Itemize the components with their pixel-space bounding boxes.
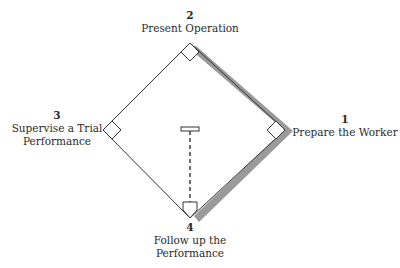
step-4-text-line-1: Follow up the (130, 234, 250, 247)
step-3-label: 3 Supervise a Trial Performance (8, 109, 106, 148)
step-4-label: 4 Follow up the Performance (130, 221, 250, 260)
step-3-text-line-1: Supervise a Trial (8, 122, 106, 135)
pitchers-rubber-icon (181, 127, 199, 131)
step-2-label: 2 Present Operation (120, 9, 260, 35)
base-2-icon (181, 43, 199, 61)
step-1-number: 1 (290, 113, 400, 126)
step-2-text: Present Operation (120, 22, 260, 35)
step-1-label: 1 Prepare the Worker (290, 113, 400, 139)
step-4-number: 4 (130, 221, 250, 234)
step-3-number: 3 (8, 109, 106, 122)
step-2-number: 2 (120, 9, 260, 22)
step-1-text: Prepare the Worker (290, 126, 400, 139)
step-4-text-line-2: Performance (130, 247, 250, 260)
step-3-text-line-2: Performance (8, 135, 106, 148)
